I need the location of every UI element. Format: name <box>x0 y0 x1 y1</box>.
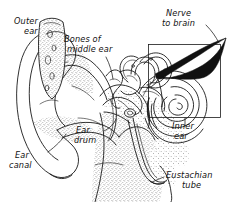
label-outer-ear-line1: Outer <box>14 16 38 26</box>
label-nerve-line2: to brain <box>162 18 195 28</box>
label-ear-canal-line1: Ear <box>15 150 29 160</box>
label-outer-ear: Outer ear <box>14 16 63 36</box>
leader-bones-middle-ear <box>106 57 113 79</box>
label-ear-canal-line2: canal <box>9 160 32 170</box>
label-nerve-to-brain: Nerve to brain <box>162 8 216 28</box>
ear-diagram-canvas: Outer ear Bones of middle ear Nerve to b… <box>0 0 229 202</box>
label-bones-line2: middle ear <box>67 44 113 54</box>
label-eustachian-line2: tube <box>182 180 201 190</box>
label-inner-ear: Inner ear <box>172 121 219 141</box>
label-inner-ear-line2: ear <box>174 131 188 141</box>
label-eustachian-line1: Eustachian <box>166 170 213 180</box>
label-ear-drum-line1: Ear <box>76 125 90 135</box>
label-nerve-line1: Nerve <box>166 8 191 18</box>
ear-anatomy-diagram: Outer ear Bones of middle ear Nerve to b… <box>0 0 229 202</box>
label-ear-drum: Ear drum <box>74 125 116 145</box>
label-outer-ear-line2: ear <box>24 26 38 36</box>
label-ear-canal: Ear canal <box>9 150 54 170</box>
label-bones-of-middle-ear: Bones of middle ear <box>64 34 132 54</box>
label-inner-ear-line1: Inner <box>172 121 194 131</box>
label-bones-line1: Bones of <box>64 34 102 44</box>
label-ear-drum-line2: drum <box>74 135 96 145</box>
